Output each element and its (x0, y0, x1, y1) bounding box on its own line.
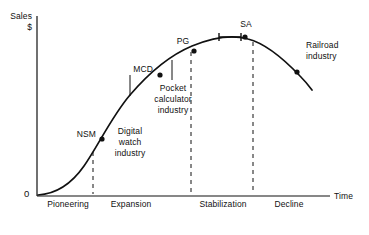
data-point-railroad (294, 69, 299, 74)
data-point-mcd (157, 72, 162, 77)
x-axis-label: Time (334, 191, 353, 202)
callout-railroad-line1: Railroad (306, 40, 366, 51)
stage-label-expansion: Expansion (100, 199, 162, 210)
life-cycle-chart: Sales $ 0 Time Pioneering Expansion Stab… (0, 0, 369, 235)
data-point-sa (242, 34, 247, 39)
stage-label-pioneering: Pioneering (40, 199, 96, 210)
data-point-pg (191, 48, 196, 53)
sales-curve (38, 37, 312, 195)
marker-label-sa: SA (234, 19, 258, 30)
stage-label-decline: Decline (262, 199, 316, 210)
data-point-nsm (99, 136, 104, 141)
marker-label-mcd: MCD (113, 64, 153, 75)
marker-label-nsm: NSM (58, 129, 96, 140)
callout-railroad-line2: industry (306, 51, 366, 62)
marker-label-pg: PG (171, 36, 195, 47)
stage-label-stabilization: Stabilization (188, 199, 258, 210)
callout-pocket-calculator-line1: Pocket (145, 83, 201, 94)
y-axis-label-line2: $ (2, 22, 32, 33)
callout-pocket-calculator-line3: industry (145, 105, 201, 116)
callout-pocket-calculator-line2: calculator (145, 94, 201, 105)
callout-digital-watch-line3: industry (105, 148, 155, 159)
callout-digital-watch-line1: Digital (105, 126, 155, 137)
origin-label: 0 (24, 189, 29, 200)
callout-digital-watch-line2: watch (105, 137, 155, 148)
y-axis-label-line1: Sales (2, 11, 32, 22)
